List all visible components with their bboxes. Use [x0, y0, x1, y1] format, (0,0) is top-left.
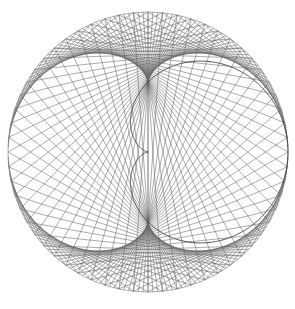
envelope-string-figure	[0, 0, 295, 309]
screenshot-canvas	[0, 0, 295, 309]
envelope-string-figure-svg	[0, 0, 295, 309]
